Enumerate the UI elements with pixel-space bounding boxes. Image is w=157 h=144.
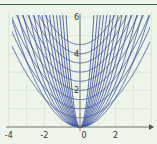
y-tick-label: 4 [74,50,79,59]
y-tick-label: 2 [74,86,79,95]
x-tick-label: -2 [40,131,48,140]
parabola-family-chart: -4-202246 [0,0,157,144]
x-tick-label: -4 [5,131,13,140]
x-tick-label: 0 [81,131,86,140]
y-tick-label: 6 [74,13,79,22]
x-tick-label: 2 [113,131,118,140]
